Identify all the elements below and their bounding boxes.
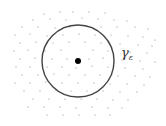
center-point xyxy=(75,58,81,64)
scatter-dot xyxy=(86,90,87,91)
scatter-dot xyxy=(146,52,147,53)
scatter-dot xyxy=(127,99,128,100)
scatter-dot xyxy=(126,20,127,21)
scatter-dot xyxy=(109,83,110,84)
scatter-dot xyxy=(107,66,108,67)
scatter-dot xyxy=(75,107,76,108)
scatter-dot xyxy=(64,98,65,99)
scatter-dot xyxy=(154,39,155,40)
scatter-dot xyxy=(21,26,22,27)
scatter-dot xyxy=(14,82,15,83)
scatter-dot xyxy=(104,12,105,13)
scatter-dot xyxy=(70,90,71,91)
diagram-canvas: γε xyxy=(0,0,166,126)
scatter-dot xyxy=(143,84,144,85)
scatter-dot xyxy=(23,90,24,91)
scatter-dot xyxy=(27,49,28,50)
scatter-dot xyxy=(61,66,62,67)
scatter-dot xyxy=(93,82,94,83)
scatter-dot xyxy=(59,106,60,107)
scatter-dot xyxy=(48,98,49,99)
scatter-dot xyxy=(13,50,14,51)
scatter-dot xyxy=(29,66,30,67)
scatter-dot xyxy=(91,65,92,66)
scatter-dot xyxy=(60,49,61,50)
scatter-dot xyxy=(78,114,79,115)
scatter-dot xyxy=(88,58,89,59)
scatter-dot xyxy=(94,114,95,115)
scatter-dot xyxy=(92,49,93,50)
scatter-dot xyxy=(113,19,114,20)
scatter-dot xyxy=(80,98,81,99)
scatter-dot xyxy=(46,114,47,115)
scatter-dot xyxy=(134,75,135,76)
scatter-dot xyxy=(52,42,53,43)
scatter-dot xyxy=(142,36,143,37)
scatter-dot xyxy=(96,98,97,99)
scatter-dot xyxy=(43,106,44,107)
scatter-dot xyxy=(94,34,95,35)
scatter-dot xyxy=(65,19,66,20)
scatter-dot xyxy=(51,58,52,59)
scatter-dot xyxy=(61,82,62,83)
scatter-dot xyxy=(126,83,127,84)
scatter-dot xyxy=(37,26,38,27)
scatter-dot xyxy=(45,81,46,82)
scatter-dot xyxy=(29,33,30,34)
scatter-dot xyxy=(102,90,103,91)
scatter-dot xyxy=(54,27,55,28)
scatter-dot xyxy=(19,58,20,59)
scatter-dot xyxy=(66,58,67,59)
scatter-dot xyxy=(62,114,63,115)
scatter-dot xyxy=(151,45,152,46)
scatter-dot xyxy=(109,114,110,115)
scatter-points xyxy=(13,11,155,115)
scatter-dot xyxy=(84,74,85,75)
scatter-dot xyxy=(88,11,89,12)
scatter-dot xyxy=(116,26,117,27)
scatter-dot xyxy=(112,99,113,100)
scatter-dot xyxy=(29,82,30,83)
scatter-dot xyxy=(15,66,16,67)
scatter-dot xyxy=(46,66,47,67)
scatter-dot xyxy=(139,60,140,61)
scatter-dot xyxy=(110,34,111,35)
scatter-dot xyxy=(72,11,73,12)
scatter-dot xyxy=(154,61,155,62)
scatter-dot xyxy=(27,106,28,107)
scatter-dot xyxy=(39,90,40,91)
scatter-dot xyxy=(68,41,69,42)
scatter-dot xyxy=(142,68,143,69)
scatter-dot xyxy=(121,107,122,108)
scatter-dot xyxy=(62,34,63,35)
scatter-dot xyxy=(127,35,128,36)
scatter-dot xyxy=(97,18,98,19)
scatter-dot xyxy=(53,73,54,74)
scatter-dot xyxy=(84,41,85,42)
scatter-dot xyxy=(68,74,69,75)
scatter-dot xyxy=(107,107,108,108)
scatter-dot xyxy=(35,41,36,42)
scatter-dot xyxy=(107,50,108,51)
scatter-dot xyxy=(75,67,76,68)
epsilon-subscript: ε xyxy=(129,53,133,62)
scatter-dot xyxy=(44,50,45,51)
scatter-dot xyxy=(21,74,22,75)
scatter-dot xyxy=(124,67,125,68)
scatter-dot xyxy=(19,42,20,43)
scatter-dot xyxy=(136,91,137,92)
scatter-dot xyxy=(149,76,150,77)
scatter-dot xyxy=(49,18,50,19)
scatter-dot xyxy=(134,26,135,27)
scatter-dot xyxy=(100,42,101,43)
scatter-dot xyxy=(102,57,103,58)
scatter-dot xyxy=(46,35,47,36)
scatter-dot xyxy=(77,82,78,83)
scatter-dot xyxy=(14,34,15,35)
scatter-dot xyxy=(34,57,35,58)
scatter-dot xyxy=(32,19,33,20)
scatter-dot xyxy=(81,17,82,18)
scatter-dot xyxy=(137,44,138,45)
scatter-dot xyxy=(59,11,60,12)
scatter-dot xyxy=(147,28,148,29)
